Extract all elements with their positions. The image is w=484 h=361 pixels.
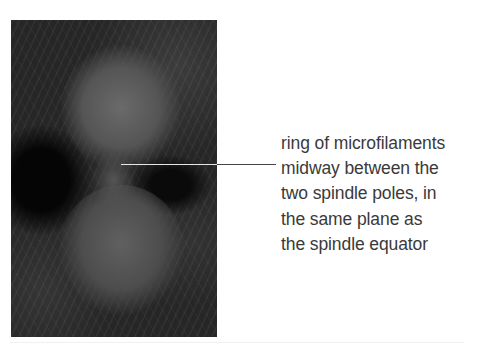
cell-micrograph — [11, 20, 217, 337]
label-line-1: ring of microfilaments — [281, 131, 445, 156]
cleavage-furrow — [91, 150, 136, 210]
leader-line — [121, 164, 276, 165]
label-line-5: the spindle equator — [281, 232, 445, 257]
label-line-4: the same plane as — [281, 207, 445, 232]
label-line-2: midway between the — [281, 156, 445, 181]
figure: ring of microfilaments midway between th… — [0, 0, 484, 361]
divider — [10, 342, 464, 343]
label-line-3: two spindle poles, in — [281, 181, 445, 206]
annotation-label: ring of microfilaments midway between th… — [281, 131, 445, 257]
